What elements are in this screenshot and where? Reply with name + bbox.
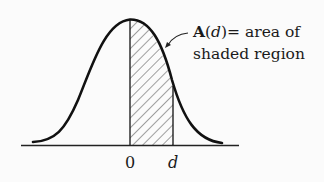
pointer-arrow [168,33,188,45]
annotation-line-2: shaded region [193,44,305,64]
annotation-variable: d [211,23,221,41]
annotation-symbol: A [193,22,205,41]
tick-label-d: d [168,153,178,172]
tick-label-zero: 0 [125,153,135,172]
shaded-region [130,15,173,146]
diagram: A(d)= area of shaded region 0 d [0,0,324,182]
annotation-line-1: A(d)= area of [193,22,300,42]
annotation-text-1: = area of [227,23,300,41]
arrowhead-icon [165,42,171,48]
